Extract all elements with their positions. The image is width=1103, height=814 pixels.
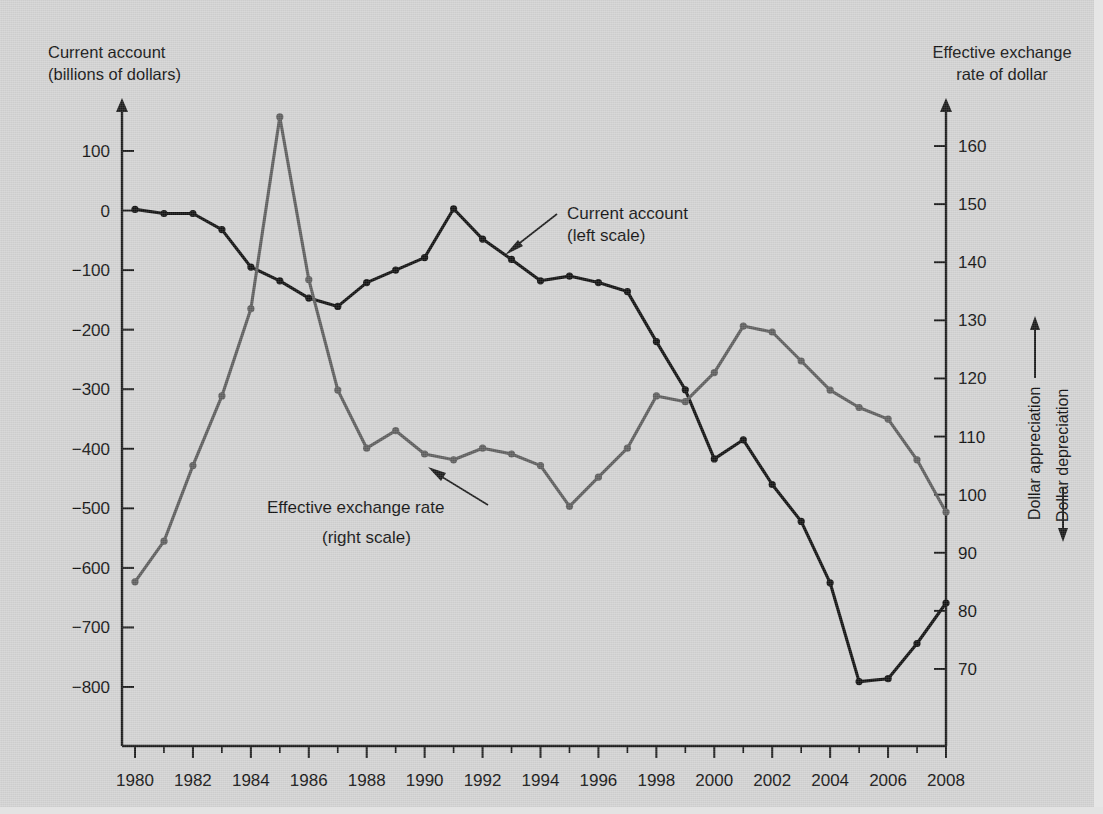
left-tick-label: −600	[72, 559, 110, 578]
right-tick-label: 70	[958, 660, 977, 679]
data-point-exchange-rate	[508, 450, 515, 457]
page-bottom-edge	[0, 807, 1103, 814]
x-tick-label: 1994	[522, 771, 560, 790]
right-tick-label: 150	[958, 195, 986, 214]
right-axis-ticks: 160150140130120110100908070	[934, 137, 986, 679]
exchange-rate-callout-line2: (right scale)	[322, 528, 411, 547]
x-tick-label: 1988	[348, 771, 386, 790]
data-point-exchange-rate	[885, 416, 892, 423]
data-point-exchange-rate	[769, 328, 776, 335]
left-axis-title-line1: Current account	[48, 43, 166, 61]
data-point-exchange-rate	[711, 369, 718, 376]
left-axis-ticks: 1000−100−200−300−400−500−600−700−800	[72, 142, 134, 697]
data-point-exchange-rate	[537, 462, 544, 469]
data-point-exchange-rate	[856, 404, 863, 411]
data-point-current-account	[566, 273, 573, 280]
depreciation-arrow-icon	[1058, 528, 1068, 542]
data-point-current-account	[537, 277, 544, 284]
x-tick-label: 1992	[464, 771, 502, 790]
left-tick-label: −300	[72, 380, 110, 399]
data-point-current-account	[827, 579, 834, 586]
series-line-exchange-rate	[135, 117, 946, 582]
data-point-current-account	[885, 675, 892, 682]
data-point-exchange-rate	[653, 392, 660, 399]
x-tick-label: 1996	[580, 771, 618, 790]
data-point-current-account	[711, 455, 718, 462]
right-tick-label: 140	[958, 253, 986, 272]
data-point-current-account	[913, 640, 920, 647]
data-point-exchange-rate	[160, 538, 167, 545]
data-point-exchange-rate	[363, 445, 370, 452]
exchange-rate-callout: Effective exchange rate (right scale)	[267, 467, 488, 547]
left-tick-label: −700	[72, 618, 110, 637]
right-axis-title-line2: rate of dollar	[956, 65, 1048, 83]
x-tick-label: 1984	[232, 771, 270, 790]
figure-container: Current account (billions of dollars) Ef…	[0, 0, 1103, 814]
current-account-callout-line2: (left scale)	[567, 226, 645, 245]
data-point-exchange-rate	[942, 508, 949, 515]
data-point-current-account	[334, 303, 341, 310]
data-point-current-account	[653, 338, 660, 345]
data-point-current-account	[769, 481, 776, 488]
data-point-current-account	[363, 279, 370, 286]
x-tick-label: 2006	[869, 771, 907, 790]
data-point-exchange-rate	[334, 387, 341, 394]
right-tick-label: 100	[958, 486, 986, 505]
left-tick-label: −800	[72, 678, 110, 697]
data-point-exchange-rate	[305, 276, 312, 283]
left-tick-label: −100	[72, 261, 110, 280]
right-tick-label: 120	[958, 369, 986, 388]
data-point-current-account	[218, 226, 225, 233]
left-tick-label: 0	[101, 202, 110, 221]
data-point-current-account	[682, 386, 689, 393]
right-tick-label: 80	[958, 602, 977, 621]
series-group	[131, 113, 949, 685]
data-point-current-account	[421, 254, 428, 261]
data-point-current-account	[276, 277, 283, 284]
data-point-current-account	[942, 599, 949, 606]
x-tick-label: 1990	[406, 771, 444, 790]
chart-canvas: Current account (billions of dollars) Ef…	[0, 0, 1103, 814]
x-tick-label: 1982	[174, 771, 212, 790]
appreciation-arrow-icon	[1030, 316, 1040, 330]
right-tick-label: 160	[958, 137, 986, 156]
left-tick-label: 100	[82, 142, 110, 161]
data-point-current-account	[798, 518, 805, 525]
data-point-current-account	[508, 256, 515, 263]
x-tick-label: 2000	[695, 771, 733, 790]
data-point-exchange-rate	[218, 392, 225, 399]
data-point-exchange-rate	[392, 427, 399, 434]
data-point-current-account	[131, 206, 138, 213]
left-axis-title-line2: (billions of dollars)	[48, 65, 181, 83]
data-point-current-account	[450, 205, 457, 212]
data-point-current-account	[856, 678, 863, 685]
x-tick-label: 1980	[116, 771, 154, 790]
exchange-rate-arrow-icon	[428, 467, 446, 481]
data-point-current-account	[392, 267, 399, 274]
left-tick-label: −200	[72, 321, 110, 340]
x-tick-label: 1986	[290, 771, 328, 790]
data-point-current-account	[740, 436, 747, 443]
data-point-exchange-rate	[740, 323, 747, 330]
x-tick-label: 2002	[753, 771, 791, 790]
current-account-callout-line1: Current account	[567, 204, 688, 223]
data-point-exchange-rate	[566, 503, 573, 510]
data-point-exchange-rate	[247, 305, 254, 312]
data-point-current-account	[247, 264, 254, 271]
dollar-appreciation-label: Dollar appreciation	[1026, 316, 1043, 520]
data-point-exchange-rate	[595, 474, 602, 481]
data-point-exchange-rate	[624, 445, 631, 452]
data-point-current-account	[160, 210, 167, 217]
left-tick-label: −500	[72, 499, 110, 518]
right-tick-label: 90	[958, 544, 977, 563]
data-point-current-account	[595, 279, 602, 286]
exchange-rate-callout-line1: Effective exchange rate	[267, 498, 444, 517]
right-axis-arrow-icon	[940, 98, 952, 112]
x-tick-label: 1998	[637, 771, 675, 790]
right-tick-label: 130	[958, 311, 986, 330]
data-point-exchange-rate	[798, 357, 805, 364]
left-axis-arrow-icon	[116, 98, 128, 112]
right-tick-label: 110	[958, 428, 985, 447]
data-point-exchange-rate	[421, 450, 428, 457]
dollar-depreciation-label: Dollar depreciation	[1054, 389, 1071, 542]
